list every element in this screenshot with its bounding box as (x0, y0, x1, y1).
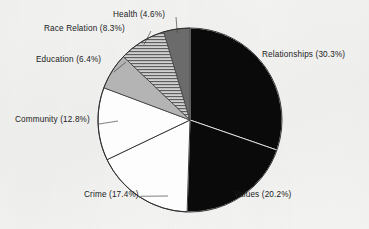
pie-slices-group (98, 28, 282, 212)
slice-label-health: Health (4.6%) (113, 11, 165, 19)
slice-label-relationships: Relationships (30.3%) (262, 51, 345, 59)
pie-chart-figure: Health (4.6%) Race Relation (8.3%) Educa… (0, 0, 369, 229)
slice-label-values: Values (20.2%) (234, 191, 291, 199)
slice-label-education: Education (6.4%) (36, 56, 101, 64)
slice-label-race-relation: Race Relation (8.3%) (44, 25, 125, 33)
slice-label-crime: Crime (17.4%) (84, 191, 139, 199)
slice-label-community: Community (12.8%) (15, 116, 90, 124)
